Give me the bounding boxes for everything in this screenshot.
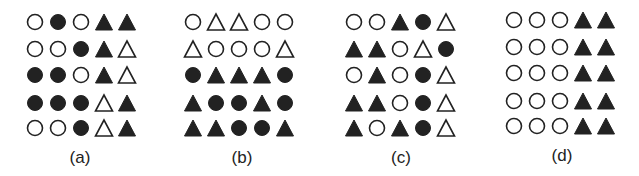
- open-circle-icon: [51, 121, 66, 136]
- filled-circle-icon: [232, 96, 247, 111]
- shape-grid-figure: (a) (b) (c) (d): [0, 0, 639, 176]
- open-circle-icon: [28, 42, 43, 57]
- open-triangle-icon: [438, 95, 455, 111]
- open-circle-icon: [507, 13, 522, 28]
- open-circle-icon: [553, 40, 568, 55]
- open-triangle-icon: [208, 14, 225, 30]
- filled-triangle-icon: [96, 14, 113, 30]
- filled-triangle-icon: [254, 95, 271, 111]
- open-circle-icon: [255, 42, 270, 57]
- filled-circle-icon: [278, 68, 293, 83]
- panel-b-label: (b): [232, 148, 253, 167]
- panel-a: (a): [28, 14, 136, 167]
- filled-triangle-icon: [598, 93, 615, 109]
- filled-circle-icon: [51, 96, 66, 111]
- filled-triangle-icon: [254, 67, 271, 83]
- open-circle-icon: [209, 42, 224, 57]
- filled-triangle-icon: [575, 93, 592, 109]
- filled-triangle-icon: [96, 41, 113, 57]
- filled-circle-icon: [74, 42, 89, 57]
- open-circle-icon: [507, 66, 522, 81]
- filled-circle-icon: [232, 121, 247, 136]
- filled-triangle-icon: [392, 120, 409, 136]
- filled-triangle-icon: [185, 95, 202, 111]
- filled-circle-icon: [416, 15, 431, 30]
- filled-triangle-icon: [346, 41, 363, 57]
- filled-circle-icon: [51, 15, 66, 30]
- filled-triangle-icon: [575, 65, 592, 81]
- filled-triangle-icon: [575, 12, 592, 28]
- open-triangle-icon: [438, 14, 455, 30]
- open-circle-icon: [553, 66, 568, 81]
- open-circle-icon: [530, 66, 545, 81]
- filled-circle-icon: [28, 96, 43, 111]
- open-circle-icon: [370, 121, 385, 136]
- open-triangle-icon: [277, 41, 294, 57]
- open-circle-icon: [553, 94, 568, 109]
- open-circle-icon: [347, 68, 362, 83]
- open-circle-icon: [507, 40, 522, 55]
- open-triangle-icon: [96, 120, 113, 136]
- open-circle-icon: [370, 15, 385, 30]
- filled-triangle-icon: [369, 67, 386, 83]
- open-circle-icon: [393, 42, 408, 57]
- filled-triangle-icon: [598, 118, 615, 134]
- open-triangle-icon: [119, 41, 136, 57]
- open-circle-icon: [278, 15, 293, 30]
- open-circle-icon: [51, 42, 66, 57]
- open-circle-icon: [530, 119, 545, 134]
- open-triangle-icon: [415, 41, 432, 57]
- filled-triangle-icon: [208, 120, 225, 136]
- open-circle-icon: [393, 96, 408, 111]
- open-circle-icon: [28, 121, 43, 136]
- open-circle-icon: [553, 13, 568, 28]
- filled-circle-icon: [209, 96, 224, 111]
- open-triangle-icon: [438, 67, 455, 83]
- open-triangle-icon: [438, 120, 455, 136]
- panel-a-label: (a): [70, 148, 91, 167]
- filled-triangle-icon: [598, 39, 615, 55]
- open-circle-icon: [530, 40, 545, 55]
- open-circle-icon: [507, 119, 522, 134]
- open-circle-icon: [530, 94, 545, 109]
- filled-circle-icon: [255, 121, 270, 136]
- open-circle-icon: [347, 15, 362, 30]
- filled-triangle-icon: [392, 14, 409, 30]
- filled-triangle-icon: [598, 12, 615, 28]
- filled-triangle-icon: [369, 95, 386, 111]
- filled-circle-icon: [186, 68, 201, 83]
- filled-circle-icon: [416, 121, 431, 136]
- panel-b: (b): [185, 14, 294, 167]
- filled-circle-icon: [416, 68, 431, 83]
- filled-triangle-icon: [119, 14, 136, 30]
- filled-triangle-icon: [185, 120, 202, 136]
- open-circle-icon: [74, 15, 89, 30]
- panel-d: (d): [507, 12, 615, 165]
- open-circle-icon: [530, 13, 545, 28]
- filled-triangle-icon: [369, 41, 386, 57]
- filled-triangle-icon: [346, 120, 363, 136]
- open-triangle-icon: [231, 14, 248, 30]
- filled-circle-icon: [28, 68, 43, 83]
- filled-circle-icon: [74, 121, 89, 136]
- filled-circle-icon: [416, 96, 431, 111]
- open-circle-icon: [393, 68, 408, 83]
- filled-triangle-icon: [277, 120, 294, 136]
- open-triangle-icon: [119, 67, 136, 83]
- panel-c: (c): [346, 14, 455, 167]
- filled-triangle-icon: [208, 67, 225, 83]
- filled-circle-icon: [74, 96, 89, 111]
- filled-triangle-icon: [119, 120, 136, 136]
- filled-triangle-icon: [598, 65, 615, 81]
- filled-triangle-icon: [119, 95, 136, 111]
- panel-c-label: (c): [391, 148, 411, 167]
- filled-circle-icon: [439, 42, 454, 57]
- open-circle-icon: [186, 15, 201, 30]
- filled-triangle-icon: [96, 67, 113, 83]
- open-circle-icon: [232, 42, 247, 57]
- open-circle-icon: [74, 68, 89, 83]
- filled-circle-icon: [278, 96, 293, 111]
- filled-triangle-icon: [575, 39, 592, 55]
- filled-circle-icon: [51, 68, 66, 83]
- filled-triangle-icon: [346, 95, 363, 111]
